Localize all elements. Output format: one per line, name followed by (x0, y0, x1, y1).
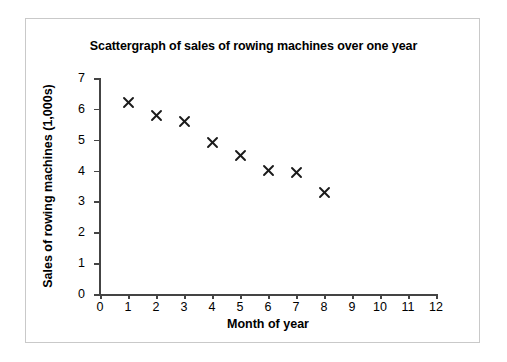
y-tick-label: 7 (78, 71, 85, 85)
y-tick-label: 1 (78, 256, 85, 270)
data-point-x-marker (178, 115, 191, 128)
x-tick (352, 294, 354, 299)
x-tick-label: 4 (209, 300, 216, 314)
data-point-x-marker (262, 164, 275, 177)
data-point-x-marker (234, 149, 247, 162)
x-axis-title: Month of year (100, 317, 436, 331)
data-point-x-marker (150, 109, 163, 122)
data-point-x-marker (290, 166, 303, 179)
data-point-x-marker (206, 136, 219, 149)
x-tick (408, 294, 410, 299)
x-tick (240, 294, 242, 299)
y-tick: 3 (94, 201, 100, 203)
y-tick-label: 5 (78, 133, 85, 147)
x-tick-label: 5 (237, 300, 244, 314)
x-tick-label: 12 (429, 300, 443, 314)
y-tick: 6 (94, 109, 100, 111)
x-tick (128, 294, 130, 299)
figure-frame: Scattergraph of sales of rowing machines… (25, 18, 480, 343)
x-tick (156, 294, 158, 299)
y-tick-label: 3 (78, 194, 85, 208)
x-tick-label: 8 (321, 300, 328, 314)
y-axis-title: Sales of rowing machines (1,000s) (39, 78, 57, 294)
y-tick-label: 2 (78, 225, 85, 239)
y-tick: 1 (94, 263, 100, 265)
x-tick (296, 294, 298, 299)
data-point-x-marker (122, 96, 135, 109)
x-tick-label: 10 (373, 300, 387, 314)
y-tick-label: 0 (78, 287, 85, 301)
x-tick-label: 3 (181, 300, 188, 314)
x-tick (380, 294, 382, 299)
x-tick-label: 2 (153, 300, 160, 314)
x-tick-label: 0 (97, 300, 104, 314)
y-tick-label: 4 (78, 164, 85, 178)
y-tick: 2 (94, 232, 100, 234)
x-tick-label: 7 (293, 300, 300, 314)
y-tick: 4 (94, 171, 100, 173)
chart-title: Scattergraph of sales of rowing machines… (26, 39, 481, 53)
x-tick-label: 11 (402, 300, 415, 314)
y-axis-title-text: Sales of rowing machines (1,000s) (41, 84, 55, 288)
y-axis-line (99, 78, 101, 294)
x-tick (324, 294, 326, 299)
y-tick: 5 (94, 140, 100, 142)
x-tick (100, 294, 102, 299)
x-tick (212, 294, 214, 299)
y-tick-label: 6 (78, 102, 85, 116)
plot-area: 01234567 0123456789101112 (100, 78, 436, 294)
x-tick (436, 294, 438, 299)
data-point-x-marker (318, 186, 331, 199)
x-tick (184, 294, 186, 299)
x-tick (268, 294, 270, 299)
x-tick-label: 9 (349, 300, 356, 314)
x-tick-label: 6 (265, 300, 272, 314)
x-tick-label: 1 (125, 300, 132, 314)
y-tick: 7 (94, 78, 100, 80)
